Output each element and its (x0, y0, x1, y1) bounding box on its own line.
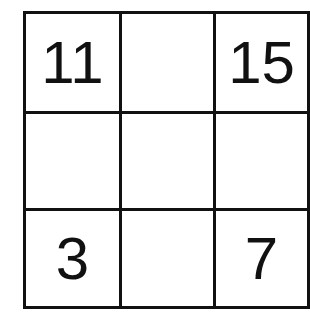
number-grid: 11 15 3 7 (23, 11, 310, 309)
grid-line-h3 (23, 306, 310, 309)
grid-cell-r0c1 (122, 14, 213, 111)
grid-cell-r2c2: 7 (216, 211, 307, 306)
grid-cell-r1c2 (216, 114, 307, 208)
grid-cell-r0c2: 15 (216, 14, 307, 111)
grid-line-v3 (307, 11, 310, 309)
grid-cell-r0c0: 11 (26, 14, 119, 111)
grid-cell-r1c1 (122, 114, 213, 208)
grid-cell-r1c0 (26, 114, 119, 208)
grid-cell-r2c0: 3 (26, 211, 119, 306)
grid-cell-r2c1 (122, 211, 213, 306)
